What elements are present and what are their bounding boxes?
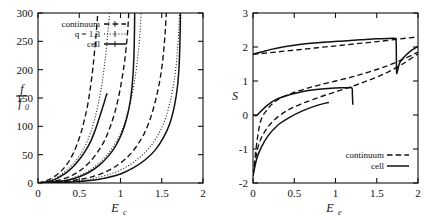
- y-tick-label: 1: [243, 75, 249, 87]
- legend-label-dotted: q = 1.3: [75, 29, 101, 39]
- legend-right: continuumcell: [346, 150, 410, 171]
- legend-left: continuumq = 1.3cell: [62, 19, 127, 49]
- x-axis-label-base: E: [110, 201, 119, 215]
- x-axis-label-sub: c: [123, 208, 127, 217]
- x-tick-label: 1: [118, 187, 124, 199]
- x-tick-label: 2: [200, 187, 206, 199]
- y-tick-label: -1: [239, 143, 248, 155]
- y-tick-label: 300: [17, 7, 34, 19]
- curve-continuum-upper: [253, 37, 418, 54]
- legend-label-solid: cell: [371, 161, 384, 171]
- curve-cell-3: [38, 13, 180, 183]
- x-axis-label: E c: [110, 201, 127, 217]
- curve-continuum-middle: [253, 52, 418, 174]
- curve-q1.3-3: [38, 13, 179, 183]
- y-tick-label: 50: [22, 149, 34, 161]
- chart-panel-right: 00.511.52-2-10123 S E e continuumcell: [215, 0, 430, 220]
- right-plot-svg: 00.511.52-2-10123 S E e continuumcell: [215, 0, 430, 220]
- legend-label-dashed: continuum: [346, 150, 385, 160]
- left-plot-svg: 00.511.52050100150200250300 f f 0 E c co…: [0, 0, 215, 220]
- x-tick-label: 2: [415, 187, 421, 199]
- x-axis-label-base: E: [325, 201, 334, 215]
- x-tick-label: 0: [250, 187, 256, 199]
- x-tick-label: 0.5: [72, 187, 86, 199]
- x-tick-label: 1.5: [155, 187, 169, 199]
- y-axis-label: S: [232, 89, 238, 103]
- y-tick-label: 2: [243, 41, 249, 53]
- y-tick-label: 0: [28, 177, 34, 189]
- y-tick-label: 100: [17, 120, 34, 132]
- y-tick-label: 3: [243, 7, 249, 19]
- legend-label-solid: cell: [87, 39, 100, 49]
- data-curves: [38, 13, 180, 183]
- y-tick-label: -2: [239, 177, 248, 189]
- x-tick-label: 0: [35, 187, 41, 199]
- y-tick-label: 200: [17, 64, 34, 76]
- y-axis-label-denominator-sub: 0: [25, 103, 29, 112]
- x-axis-label: E e: [325, 201, 342, 217]
- axis-tick-labels: 00.511.52-2-10123: [239, 7, 421, 199]
- curve-cell-upper: [253, 38, 418, 73]
- chart-panel-left: 00.511.52050100150200250300 f f 0 E c co…: [0, 0, 215, 220]
- x-axis-label-sub: e: [338, 208, 342, 217]
- legend-label-dashed: continuum: [62, 19, 101, 29]
- data-curves: [253, 37, 418, 176]
- y-tick-label: 250: [17, 35, 34, 47]
- curve-cell-1: [38, 93, 107, 183]
- x-tick-label: 1: [333, 187, 339, 199]
- axis-tick-labels: 00.511.52050100150200250300: [17, 7, 206, 199]
- x-tick-label: 1.5: [370, 187, 384, 199]
- curve-continuum-lower: [253, 54, 418, 176]
- y-tick-label: 0: [243, 109, 249, 121]
- figure-container: 00.511.52050100150200250300 f f 0 E c co…: [0, 0, 430, 220]
- x-tick-label: 0.5: [287, 187, 301, 199]
